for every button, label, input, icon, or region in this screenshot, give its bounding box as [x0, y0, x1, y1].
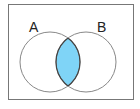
venn-diagram: [0, 0, 140, 109]
set-a-label: A: [29, 20, 38, 34]
set-b-label: B: [97, 20, 106, 34]
